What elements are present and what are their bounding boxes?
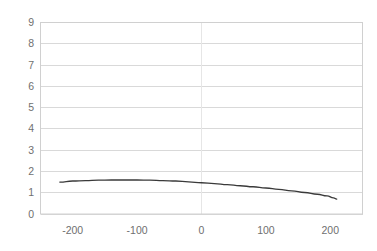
y-axis-tick-label: 6 [14,81,34,92]
y-axis-tick-label: 0 [14,209,34,220]
y-axis-tick-label: 4 [14,123,34,134]
y-axis-tick-label: 5 [14,102,34,113]
data-series-group [60,180,337,199]
data-line-1 [60,180,337,199]
y-axis-tick-label: 1 [14,187,34,198]
y-axis-tick-label: 8 [14,38,34,49]
x-axis-tick-label: -200 [50,225,96,236]
y-axis-tick-label: 9 [14,17,34,28]
y-axis-tick-label: 7 [14,60,34,71]
x-axis-tick-label: -100 [114,225,160,236]
x-axis-tick-label: 0 [179,225,225,236]
chart-container: 9876543210 -200-1000100200 [0,0,377,251]
y-axis-tick-label: 2 [14,166,34,177]
chart-plot-svg [0,0,377,251]
x-axis-tick-label: 100 [243,225,289,236]
x-axis-tick-label: 200 [307,225,353,236]
y-axis-tick-label: 3 [14,145,34,156]
